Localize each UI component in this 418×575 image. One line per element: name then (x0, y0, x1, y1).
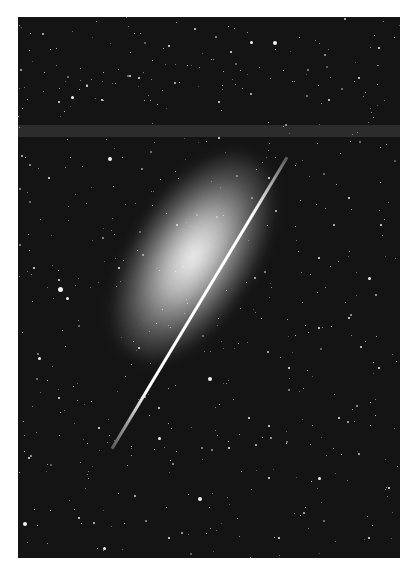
star (64, 111, 65, 112)
star (358, 77, 360, 79)
star (221, 110, 222, 111)
star (273, 469, 274, 470)
star (351, 209, 352, 210)
star (317, 143, 318, 144)
star (92, 466, 93, 467)
star (112, 218, 113, 219)
star (323, 173, 325, 175)
star (251, 489, 252, 490)
star (115, 258, 116, 259)
star (270, 78, 271, 79)
star (396, 361, 397, 362)
star (140, 33, 141, 34)
star (268, 425, 270, 427)
star (300, 515, 301, 516)
star (33, 267, 35, 269)
star (70, 106, 71, 107)
star (194, 28, 196, 30)
star (149, 415, 150, 416)
star (138, 347, 140, 349)
star (150, 151, 152, 153)
star (29, 250, 30, 251)
star (302, 302, 303, 303)
star (47, 543, 48, 544)
star (74, 509, 75, 510)
star (377, 105, 378, 106)
star (223, 71, 224, 72)
star (336, 184, 337, 185)
star (68, 220, 69, 221)
star (359, 141, 361, 143)
star (64, 410, 65, 411)
star (127, 465, 128, 466)
star (65, 346, 66, 347)
star (335, 541, 336, 542)
star (288, 389, 290, 391)
star (385, 256, 386, 257)
star (306, 95, 308, 97)
star (73, 97, 74, 98)
star (229, 504, 230, 505)
star (19, 244, 21, 246)
star (56, 48, 57, 49)
star (250, 557, 251, 558)
star (111, 526, 112, 527)
star (80, 80, 81, 81)
star (171, 428, 172, 429)
star (19, 188, 21, 190)
star (221, 341, 222, 342)
star (36, 432, 37, 433)
star (185, 159, 186, 160)
star (318, 477, 321, 480)
star (206, 533, 207, 534)
star (178, 178, 179, 179)
star (59, 88, 60, 89)
star (378, 65, 379, 66)
star (88, 478, 89, 479)
star (219, 404, 220, 405)
star (226, 383, 227, 384)
star (232, 79, 233, 80)
star (117, 391, 118, 392)
star (96, 21, 97, 22)
star (74, 423, 75, 424)
star (23, 421, 24, 422)
star (384, 100, 385, 101)
star (170, 460, 171, 461)
star (323, 520, 325, 522)
star (126, 17, 127, 18)
star (111, 230, 112, 231)
star (73, 386, 74, 387)
star (268, 177, 270, 179)
star (154, 449, 155, 450)
star (27, 99, 28, 100)
star (268, 122, 269, 123)
star (47, 464, 48, 465)
star (388, 202, 389, 203)
star (103, 72, 104, 73)
star (392, 354, 393, 355)
star (91, 79, 92, 80)
star (319, 553, 320, 554)
star (108, 419, 109, 420)
star (191, 427, 192, 428)
star (169, 472, 170, 473)
star (103, 510, 104, 511)
star (157, 104, 158, 105)
star (47, 380, 48, 381)
star (317, 488, 318, 489)
star (53, 298, 54, 299)
star (160, 179, 161, 180)
star (286, 443, 287, 444)
star (318, 257, 320, 259)
star (90, 287, 91, 288)
star (248, 417, 250, 419)
star (166, 108, 167, 109)
star (164, 447, 165, 448)
star (32, 406, 33, 407)
star (144, 396, 146, 398)
star (27, 542, 28, 543)
star (238, 343, 239, 344)
star (289, 133, 290, 134)
star (283, 126, 284, 127)
